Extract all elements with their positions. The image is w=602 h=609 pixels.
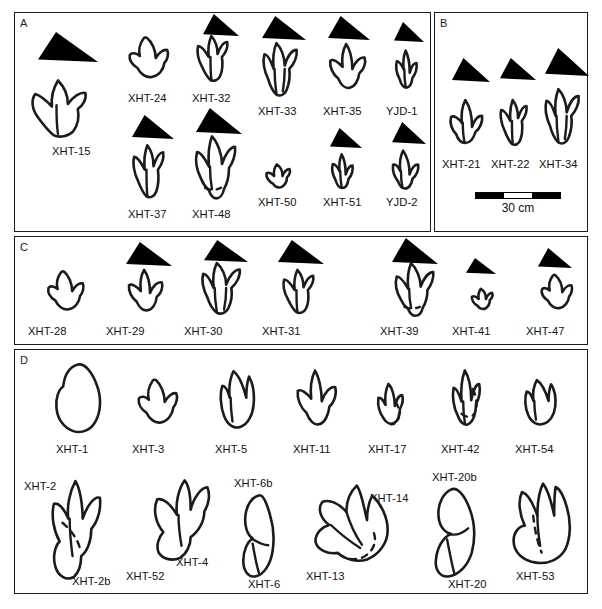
track-label-xht-42: XHT-42 <box>441 443 480 455</box>
track-outline-xht-30 <box>196 262 248 316</box>
track-label-xht-33: XHT-33 <box>258 105 297 117</box>
track-label-xht-24: XHT-24 <box>128 92 167 104</box>
scale-bar-segment <box>476 193 504 198</box>
panel-letter-d: D <box>20 354 28 366</box>
track-outline-xht-48 <box>190 135 240 201</box>
track-outline-xht-32 <box>192 34 236 84</box>
scale-bar: 30 cm <box>475 192 561 199</box>
track-label-xht-54: XHT-54 <box>515 443 554 455</box>
direction-arrow-icon <box>203 14 239 36</box>
track-label-xht-31: XHT-31 <box>262 325 301 337</box>
track-outline-xht-13 <box>312 484 398 566</box>
track-label-xht-39: XHT-39 <box>380 325 419 337</box>
track-outline-xht-31 <box>278 268 322 316</box>
direction-arrow-icon <box>392 238 438 264</box>
track-outline-xht-47 <box>538 272 576 314</box>
direction-arrow-icon <box>132 115 174 139</box>
track-label-xht-41: XHT-41 <box>452 325 491 337</box>
scale-bar-caption: 30 cm <box>475 201 561 215</box>
direction-arrow-icon <box>204 240 248 262</box>
track-outline-xht-39 <box>390 262 438 318</box>
track-label-xht-47: XHT-47 <box>526 325 565 337</box>
track-outline-xht-42 <box>448 368 488 430</box>
track-label-xht-6: XHT-6 <box>248 578 280 590</box>
panel-letter-b: B <box>440 17 448 29</box>
direction-arrow-icon <box>394 22 424 42</box>
track-outline-xht-5 <box>215 366 261 432</box>
direction-arrow-icon <box>500 58 536 80</box>
direction-arrow-icon <box>126 242 172 266</box>
track-outline-xht-20 <box>426 486 488 578</box>
track-label-xht-22: XHT-22 <box>491 158 530 170</box>
track-label-xht-48: XHT-48 <box>192 208 231 220</box>
direction-arrow-icon <box>328 16 370 40</box>
track-label-xht-5: XHT-5 <box>215 443 247 455</box>
track-label-xht-13: XHT-13 <box>306 570 345 582</box>
track-outline-xht-4 <box>142 477 218 563</box>
track-outline-xht-53 <box>508 482 578 566</box>
track-label-xht-1: XHT-1 <box>56 443 88 455</box>
track-label-xht-34: XHT-34 <box>539 158 578 170</box>
scale-bar-graphic <box>475 192 561 199</box>
track-outline-xht-50 <box>262 160 294 192</box>
direction-arrow-icon <box>545 48 589 76</box>
track-label-xht-20: XHT-20 <box>448 578 487 590</box>
direction-arrow-icon <box>196 108 242 134</box>
track-label-xht-30: XHT-30 <box>184 325 223 337</box>
track-label-xht-29: XHT-29 <box>106 325 145 337</box>
direction-arrow-icon <box>452 58 490 82</box>
track-label-xht-32: XHT-32 <box>192 92 231 104</box>
track-outline-xht-28 <box>44 268 88 316</box>
direction-arrow-icon <box>466 258 496 274</box>
track-label-xht-53: XHT-53 <box>516 570 555 582</box>
track-outline-xht-41 <box>468 285 496 313</box>
track-outline-xht-51 <box>326 152 360 192</box>
track-label-xht-52: XHT-52 <box>126 570 165 582</box>
track-label-xht-17: XHT-17 <box>368 443 407 455</box>
panel-letter-a: A <box>20 17 28 29</box>
track-outline-xht-17 <box>374 380 410 430</box>
track-label-xht-3: XHT-3 <box>132 443 164 455</box>
direction-arrow-icon <box>330 128 362 148</box>
track-outline-xht-6 <box>236 492 288 578</box>
track-outline-xht-22 <box>496 98 534 148</box>
track-label-xht-35: XHT-35 <box>323 105 362 117</box>
track-outline-xht-2b <box>38 477 110 581</box>
track-label-xht-37: XHT-37 <box>128 208 167 220</box>
track-label-xht-21: XHT-21 <box>442 158 481 170</box>
track-outline-xht-37 <box>128 143 172 201</box>
track-label-xht-20b: XHT-20b <box>432 471 477 483</box>
direction-arrow-icon <box>38 32 98 62</box>
track-outline-xht-24 <box>125 34 173 84</box>
track-label-yjd-2: YJD-2 <box>386 196 418 208</box>
track-outline-xht-21 <box>446 98 488 148</box>
scale-bar-segment <box>532 193 560 198</box>
track-outline-xht-29 <box>124 268 166 316</box>
track-label-xht-50: XHT-50 <box>258 196 297 208</box>
track-label-xht-11: XHT-11 <box>293 443 331 455</box>
track-label-xht-2b: XHT-2b <box>72 575 111 587</box>
track-outline-xht-34 <box>540 88 586 146</box>
track-label-xht-28: XHT-28 <box>28 325 67 337</box>
track-label-xht-15: XHT-15 <box>52 145 91 157</box>
track-outline-xht-1 <box>52 362 108 434</box>
track-label-xht-51: XHT-51 <box>323 196 362 208</box>
track-outline-xht-33 <box>258 42 304 98</box>
track-outline-xht-54 <box>520 376 562 428</box>
track-label-yjd-1: YJD-1 <box>386 105 418 117</box>
track-outline-yjd-1 <box>390 48 424 92</box>
track-label-xht-6b: XHT-6b <box>234 477 273 489</box>
direction-arrow-icon <box>392 122 426 144</box>
track-outline-xht-15 <box>20 78 96 140</box>
direction-arrow-icon <box>278 240 324 264</box>
track-label-xht-4: XHT-4 <box>176 556 208 568</box>
track-outline-yjd-2 <box>388 148 424 192</box>
track-outline-xht-11 <box>292 368 340 432</box>
panel-letter-c: C <box>20 241 28 253</box>
track-outline-xht-35 <box>325 42 369 94</box>
direction-arrow-icon <box>262 16 306 40</box>
track-outline-xht-3 <box>134 376 182 430</box>
direction-arrow-icon <box>538 248 572 268</box>
figure-root: AXHT-15XHT-24XHT-32XHT-33XHT-35YJD-1XHT-… <box>0 0 602 609</box>
